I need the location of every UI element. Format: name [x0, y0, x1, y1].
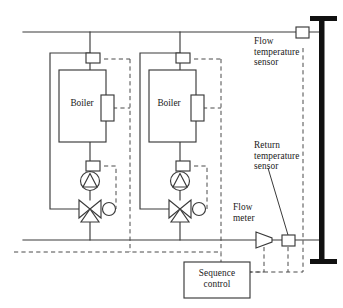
return-temperature-sensor-label: Return temperature sensor — [254, 140, 300, 172]
distribution-header-web — [319, 16, 325, 264]
boiler-1-valve-actuator[interactable] — [103, 203, 116, 216]
boiler-2-label: Boiler — [147, 98, 191, 108]
flow-meter[interactable] — [256, 232, 272, 248]
distribution-header-bottom-cap — [310, 259, 337, 264]
boiler-2-flow-sensor[interactable] — [176, 53, 190, 63]
boiler-1-return-sensor[interactable] — [86, 161, 100, 171]
return-temperature-sensor[interactable] — [282, 235, 295, 246]
distribution-header — [310, 16, 337, 264]
boiler-2-return-sensor[interactable] — [176, 161, 190, 171]
boiler-2-valve-actuator[interactable] — [193, 203, 206, 216]
sequence-control-label: Sequence control — [186, 268, 248, 289]
boiler-2-controller[interactable] — [191, 95, 204, 121]
boiler-sequence-control-diagram: Boiler Boiler Flow temperature sensor Re… — [0, 0, 343, 308]
flow-meter-label: Flow meter — [233, 202, 255, 223]
flow-temperature-sensor-label: Flow temperature sensor — [254, 36, 300, 68]
boiler-1-label: Boiler — [60, 98, 104, 108]
control-trunk-to-sequence-control — [14, 252, 221, 262]
control-stub-flow-meter — [249, 247, 264, 272]
boiler-module-2 — [149, 53, 206, 222]
boiler-1-flow-sensor[interactable] — [86, 53, 100, 63]
boiler-module-1 — [59, 53, 116, 222]
return-temperature-sensor-leader-line — [268, 168, 288, 235]
